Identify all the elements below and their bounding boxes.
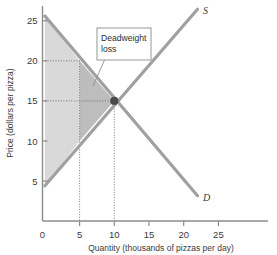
y-tick-label-20: 20 xyxy=(27,55,38,66)
equilibrium-point xyxy=(110,97,118,105)
demand-curve-label: D xyxy=(202,192,211,203)
callout-line-1: Deadweight xyxy=(101,33,147,43)
x-tick-label-25: 25 xyxy=(213,229,224,240)
y-tick-label-15: 15 xyxy=(27,95,38,106)
x-tick-label-20: 20 xyxy=(178,229,189,240)
x-tick-label-0: 0 xyxy=(40,229,45,240)
x-tick-label-5: 5 xyxy=(77,229,82,240)
callout-line-2: loss xyxy=(101,44,116,54)
supply-demand-chart: 25 20 15 10 5 0 5 10 15 20 25 Quantity (… xyxy=(0,0,277,255)
y-tick-label-25: 25 xyxy=(27,15,38,26)
x-tick-label-15: 15 xyxy=(144,229,155,240)
y-tick-label-5: 5 xyxy=(32,176,37,187)
x-axis-title: Quantity (thousands of pizzas per day) xyxy=(88,243,234,253)
x-tick-label-10: 10 xyxy=(109,229,120,240)
y-axis-title: Price (dollars per pizza) xyxy=(5,68,15,157)
y-tick-label-10: 10 xyxy=(27,136,38,147)
supply-curve-label: S xyxy=(203,5,208,16)
